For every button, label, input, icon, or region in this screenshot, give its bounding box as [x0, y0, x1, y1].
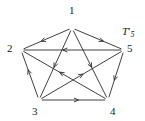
vertex-label-4: 4 [110, 106, 116, 117]
graph-figure: 1 2 3 4 5 T′5 [0, 0, 145, 121]
vertex-label-3: 3 [32, 106, 38, 117]
vertex-label-1: 1 [69, 5, 75, 16]
edge-1-to-5 [75, 29, 121, 49]
edge-3-to-2 [22, 53, 38, 97]
edges-layer [22, 29, 123, 100]
graph-name-subscript: 5 [131, 30, 135, 39]
edge-5-to-4 [109, 53, 123, 97]
vertex-label-5: 5 [127, 43, 133, 54]
directed-graph-canvas [0, 0, 145, 121]
graph-name-label: T′5 [122, 26, 135, 39]
edge-1-to-2 [24, 29, 69, 48]
vertex-label-2: 2 [7, 43, 13, 54]
edge-3-to-5 [42, 52, 121, 99]
